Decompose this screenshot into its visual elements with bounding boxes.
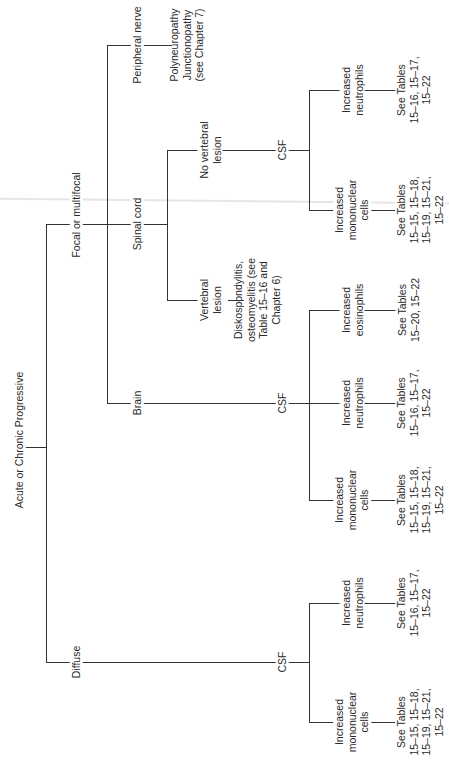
connector-level1 [46, 224, 47, 663]
connector-spinal-children [167, 150, 168, 301]
stub [378, 210, 394, 211]
scan-artifact-line [0, 198, 449, 205]
connector-diffuse-csf [309, 603, 310, 723]
stub [378, 500, 394, 501]
stub [378, 603, 394, 604]
connector-root [25, 447, 46, 448]
stub [160, 45, 172, 46]
connector-diffuse [46, 662, 309, 663]
stub [378, 722, 394, 723]
stub [378, 403, 394, 404]
connector-spinal-csf [309, 90, 310, 211]
stub [378, 310, 394, 311]
stub [228, 300, 244, 301]
connector-brain-csf [309, 310, 310, 501]
stub [378, 90, 394, 91]
